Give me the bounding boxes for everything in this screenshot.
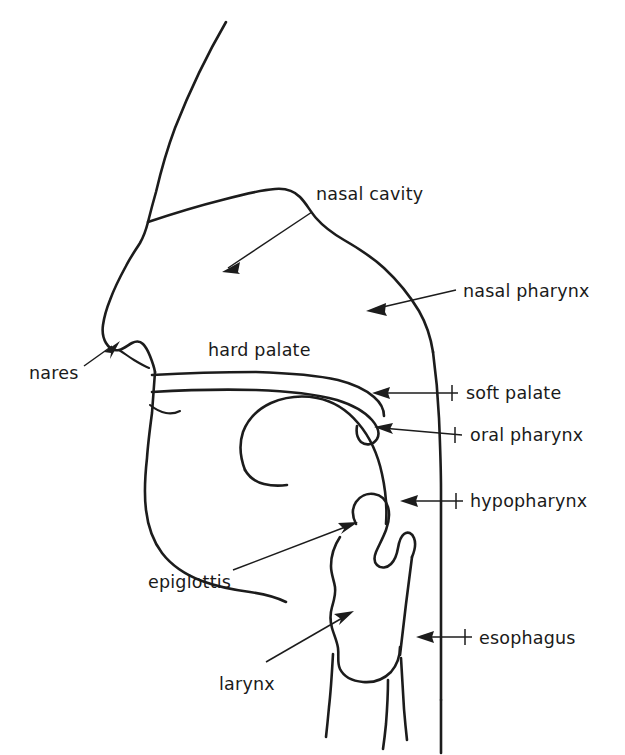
labels-group: nasal cavity nasal pharynx nares hard pa… <box>29 184 590 694</box>
leader-nares <box>84 341 120 366</box>
larynx-body-line <box>331 537 401 682</box>
label-nares: nares <box>29 363 79 383</box>
hard-palate-lower-soft-palate-line <box>152 390 378 445</box>
esophagus-anterior-line <box>401 658 407 740</box>
anatomy-outline-group <box>103 22 441 753</box>
anatomy-svg-canvas: nasal cavity nasal pharynx nares hard pa… <box>0 0 625 755</box>
pharynx-back-wall-line <box>433 352 441 700</box>
leader-larynx <box>266 611 354 662</box>
label-esophagus: esophagus <box>479 628 576 648</box>
leader-epiglottis <box>233 522 358 570</box>
trachea-anterior-line <box>326 654 333 737</box>
leader-hypopharynx <box>400 493 463 509</box>
label-hard-palate: hard palate <box>208 340 311 360</box>
forehead-nose-profile-line <box>103 22 226 372</box>
lip-notch-line <box>150 405 180 413</box>
tongue-line <box>241 397 387 524</box>
leader-lines-group <box>84 212 472 662</box>
label-nasal-pharynx: nasal pharynx <box>463 281 590 301</box>
leader-soft-palate <box>372 385 458 401</box>
larynx-posterior-line <box>400 557 412 655</box>
trachea-posterior-line <box>383 680 388 749</box>
nostril-inner-curl-line <box>119 350 149 368</box>
label-hypopharynx: hypopharynx <box>470 491 587 511</box>
epiglottis-shape-line <box>353 494 415 568</box>
label-nasal-cavity: nasal cavity <box>316 184 423 204</box>
label-oral-pharynx: oral pharynx <box>470 425 583 445</box>
tongue-inner-curl-line <box>245 470 287 486</box>
hard-palate-upper-line <box>152 372 384 416</box>
leader-nasal-pharynx <box>366 290 456 316</box>
label-larynx: larynx <box>219 674 275 694</box>
anatomy-diagram: nasal cavity nasal pharynx nares hard pa… <box>0 0 625 755</box>
label-soft-palate: soft palate <box>466 383 561 403</box>
label-epiglottis: epiglottis <box>148 572 231 592</box>
leader-esophagus <box>416 629 472 645</box>
leader-oral-pharynx <box>374 423 462 443</box>
leader-nasal-cavity <box>222 212 312 274</box>
nasal-cavity-roof-line <box>148 189 433 352</box>
